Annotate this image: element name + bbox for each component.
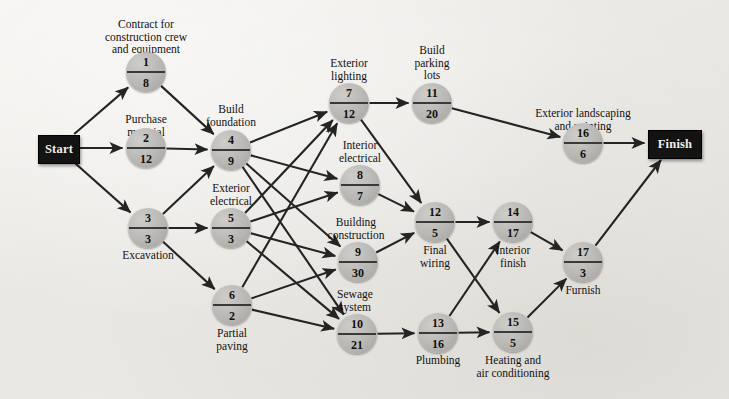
activity-duration: 3	[145, 230, 151, 249]
activity-duration: 3	[580, 264, 586, 283]
activity-label-15: Heating and air conditioning	[449, 354, 577, 379]
node-divider	[564, 142, 602, 144]
activity-number: 13	[432, 314, 444, 333]
node-divider	[129, 227, 167, 229]
activity-number: 1	[143, 53, 149, 72]
node-divider	[419, 332, 457, 334]
activity-node-12[interactable]: 125	[415, 202, 455, 242]
activity-duration: 5	[510, 334, 516, 353]
activity-duration: 30	[352, 264, 364, 283]
activity-label-10: Sewage system	[291, 288, 419, 313]
activity-duration: 12	[140, 150, 152, 169]
activity-number: 12	[429, 203, 441, 222]
activity-label-1: Contract for construction crew and equip…	[82, 18, 210, 56]
activity-duration: 9	[228, 152, 234, 171]
activity-duration: 5	[432, 224, 438, 243]
activity-duration: 8	[143, 74, 149, 93]
node-divider	[494, 221, 532, 223]
network-diagram-canvas: 1821233495362712879301021112012513161417…	[0, 0, 729, 399]
node-divider	[564, 261, 602, 263]
activity-node-4[interactable]: 49	[211, 130, 251, 170]
start-node[interactable]: Start	[38, 135, 80, 164]
activity-number: 15	[507, 313, 519, 332]
activity-node-8[interactable]: 87	[340, 165, 380, 205]
edge-8-to-12	[378, 194, 414, 212]
node-divider	[127, 71, 165, 73]
activity-node-5[interactable]: 53	[211, 208, 251, 248]
activity-duration: 7	[357, 187, 363, 206]
activity-label-6: Partial paving	[168, 327, 296, 352]
activity-number: 11	[426, 84, 437, 103]
activity-node-14[interactable]: 1417	[493, 202, 533, 242]
activity-number: 2	[143, 129, 149, 148]
activity-duration: 12	[343, 105, 355, 124]
activity-node-1[interactable]: 18	[126, 52, 166, 92]
activity-number: 6	[229, 286, 235, 305]
activity-node-11[interactable]: 1120	[412, 83, 452, 123]
activity-number: 3	[145, 209, 151, 228]
node-divider	[339, 261, 377, 263]
node-divider	[413, 102, 451, 104]
activity-duration: 21	[351, 336, 363, 355]
activity-node-17[interactable]: 173	[563, 242, 603, 282]
activity-node-6[interactable]: 62	[212, 285, 252, 325]
activity-node-9[interactable]: 930	[338, 242, 378, 282]
activity-node-10[interactable]: 1021	[337, 314, 377, 354]
activity-node-3[interactable]: 33	[128, 208, 168, 248]
activity-node-15[interactable]: 155	[493, 312, 533, 352]
activity-node-2[interactable]: 212	[126, 128, 166, 168]
activity-label-11: Build parking lots	[368, 44, 496, 82]
node-divider	[494, 331, 532, 333]
finish-node[interactable]: Finish	[648, 130, 702, 159]
activity-number: 5	[228, 209, 234, 228]
activity-number: 16	[577, 124, 589, 143]
node-divider	[212, 227, 250, 229]
node-divider	[127, 147, 165, 149]
activity-number: 17	[577, 243, 589, 262]
activity-label-14: Interior finish	[449, 244, 577, 269]
node-divider	[338, 333, 376, 335]
activity-duration: 17	[507, 224, 519, 243]
node-divider	[212, 149, 250, 151]
edge-2-to-4	[166, 148, 207, 149]
activity-duration: 16	[432, 335, 444, 354]
activity-label-8: Interior electrical	[296, 139, 424, 164]
node-divider	[213, 304, 251, 306]
activity-node-16[interactable]: 166	[563, 123, 603, 163]
activity-number: 4	[228, 131, 234, 150]
edge-start-to-3	[74, 162, 131, 212]
node-divider	[416, 221, 454, 223]
activity-label-4: Build foundation	[167, 103, 295, 128]
activity-node-7[interactable]: 712	[329, 83, 369, 123]
activity-number: 7	[346, 84, 352, 103]
activity-duration: 3	[228, 230, 234, 249]
activity-duration: 6	[580, 145, 586, 164]
activity-label-17: Furnish	[519, 284, 647, 297]
activity-number: 8	[357, 166, 363, 185]
activity-duration: 20	[426, 105, 438, 124]
edge-17-to-finish	[595, 160, 661, 246]
activity-number: 14	[507, 203, 519, 222]
activity-number: 9	[355, 243, 361, 262]
activity-duration: 2	[229, 307, 235, 326]
activity-label-9: Building construction	[292, 216, 420, 241]
activity-label-5: Exterior electrical	[167, 182, 295, 207]
activity-label-3: Excavation	[84, 249, 212, 262]
node-divider	[341, 184, 379, 186]
node-divider	[330, 102, 368, 104]
activity-number: 10	[351, 315, 363, 334]
activity-node-13[interactable]: 1316	[418, 313, 458, 353]
